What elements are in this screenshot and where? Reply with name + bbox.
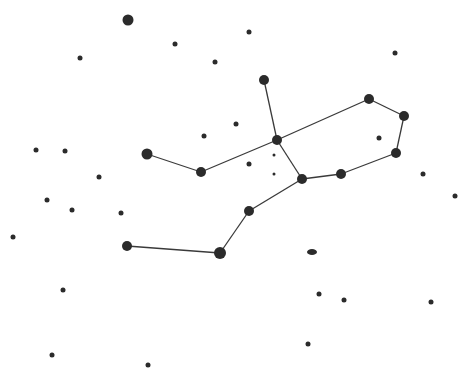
constellation-line (277, 140, 302, 179)
constellation-line (264, 80, 277, 140)
constellation-line (396, 116, 404, 153)
constellation-star (364, 94, 374, 104)
background-star (11, 235, 16, 240)
constellation-star (399, 111, 409, 121)
constellation-line (220, 211, 249, 253)
constellation-star (244, 206, 254, 216)
constellation-line (201, 140, 277, 172)
constellation-lines (127, 80, 404, 253)
constellation-star (122, 241, 132, 251)
background-star (273, 173, 276, 176)
background-star (247, 162, 252, 167)
constellation-line (127, 246, 220, 253)
constellation-star (142, 149, 153, 160)
background-star (377, 136, 382, 141)
background-star (97, 175, 102, 180)
constellation-star (336, 169, 346, 179)
background-star (61, 288, 66, 293)
background-star (317, 292, 322, 297)
background-stars (11, 15, 458, 368)
constellation-line (277, 99, 369, 140)
background-star (63, 149, 68, 154)
background-star (45, 198, 50, 203)
background-star (202, 134, 207, 139)
constellation-star (297, 174, 307, 184)
constellation-stars (122, 75, 409, 259)
constellation-star (214, 247, 226, 259)
constellation-star (391, 148, 401, 158)
background-star (78, 56, 83, 61)
background-star (146, 363, 151, 368)
background-star (342, 298, 347, 303)
constellation-star (196, 167, 206, 177)
background-star (234, 122, 239, 127)
constellation-line (341, 153, 396, 174)
nebula-object (307, 249, 317, 255)
background-star (453, 194, 458, 199)
background-star (213, 60, 218, 65)
background-star (247, 30, 252, 35)
background-star (70, 208, 75, 213)
background-star (421, 172, 426, 177)
background-star (306, 342, 311, 347)
background-star (273, 154, 276, 157)
constellation-line (302, 174, 341, 179)
background-star (123, 15, 134, 26)
background-star (50, 353, 55, 358)
constellation-line (249, 179, 302, 211)
background-star (429, 300, 434, 305)
constellation-line (147, 154, 201, 172)
background-star (173, 42, 178, 47)
constellation-star (272, 135, 282, 145)
background-star (119, 211, 124, 216)
star-map (0, 0, 471, 371)
background-star (34, 148, 39, 153)
background-star (393, 51, 398, 56)
constellation-line (369, 99, 404, 116)
constellation-star (259, 75, 269, 85)
